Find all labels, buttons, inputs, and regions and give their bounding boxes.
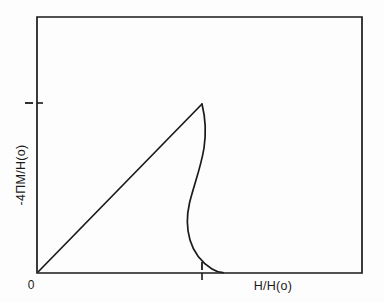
- frame-rectangle: [37, 17, 362, 273]
- origin-label: 0: [28, 278, 35, 292]
- figure-container: 0 H/H(o) -4ΠM/H(o): [0, 0, 384, 302]
- x-axis-label: H/H(o): [254, 279, 293, 293]
- series-line-mixed-state: [187, 104, 223, 273]
- magnetization-plot: 0 H/H(o) -4ΠM/H(o): [0, 0, 384, 302]
- plot-frame: [37, 17, 362, 273]
- y-axis-label: -4ΠM/H(o): [14, 144, 28, 205]
- series-line-meissner: [39, 104, 203, 272]
